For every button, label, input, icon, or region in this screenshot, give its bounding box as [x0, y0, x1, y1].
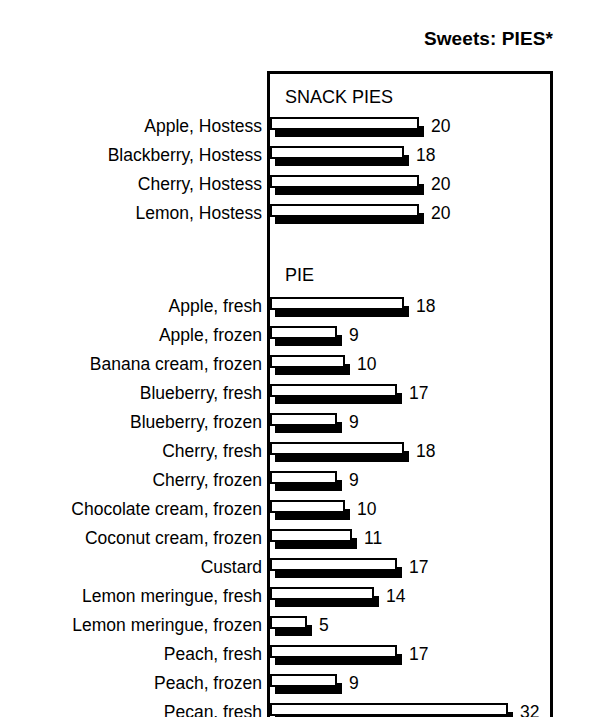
- bar-3d: [270, 587, 379, 600]
- bar-value-label: 5: [319, 615, 329, 635]
- bar-row: Cherry, frozen9: [0, 469, 598, 498]
- bar-3d: [270, 500, 350, 513]
- bar-row-label: Lemon meringue, frozen: [72, 615, 262, 635]
- bar-row-label: Blackberry, Hostess: [108, 145, 262, 165]
- group-header-label: SNACK PIES: [0, 71, 598, 115]
- bar-face: [270, 529, 352, 542]
- bar-face: [270, 413, 337, 426]
- bar-face: [270, 117, 419, 130]
- bar-face: [270, 442, 404, 455]
- bar-value-label: 32: [520, 702, 539, 717]
- bar-face: [270, 471, 337, 484]
- bar-3d: [270, 442, 409, 455]
- bar-value-label: 17: [409, 644, 428, 664]
- bar-row: Peach, fresh17: [0, 643, 598, 672]
- bar-row: Lemon, Hostess20: [0, 202, 598, 231]
- bar-value-label: 9: [349, 673, 359, 693]
- bar-value-label: 11: [364, 528, 382, 548]
- bar-face: [270, 297, 404, 310]
- bar-3d: [270, 204, 424, 217]
- bar-value-label: 10: [357, 354, 376, 374]
- bar-row: Cherry, fresh18: [0, 440, 598, 469]
- bar-3d: [270, 146, 409, 159]
- bar-3d: [270, 297, 409, 310]
- bar-face: [270, 616, 307, 629]
- bar-row-label: Pecan, fresh: [164, 702, 262, 717]
- bar-value-label: 20: [431, 116, 450, 136]
- bar-face: [270, 587, 374, 600]
- bar-row: Blueberry, frozen9: [0, 411, 598, 440]
- bar-row-label: Cherry, fresh: [162, 441, 262, 461]
- bar-value-label: 20: [431, 203, 450, 223]
- bar-face: [270, 384, 397, 397]
- bar-face: [270, 674, 337, 687]
- bar-3d: [270, 384, 402, 397]
- page-title: Sweets: PIES*: [424, 28, 553, 50]
- bar-row: Lemon meringue, fresh14: [0, 585, 598, 614]
- group-separator: [0, 231, 598, 253]
- bar-row-label: Peach, fresh: [164, 644, 262, 664]
- bar-row-label: Lemon meringue, fresh: [82, 586, 262, 606]
- bar-row-label: Cherry, frozen: [152, 470, 262, 490]
- bar-3d: [270, 355, 350, 368]
- bar-face: [270, 703, 508, 716]
- bar-row: Apple, fresh18: [0, 295, 598, 324]
- bar-face: [270, 558, 397, 571]
- bar-value-label: 20: [431, 174, 450, 194]
- bar-row: Lemon meringue, frozen5: [0, 614, 598, 643]
- bar-row-label: Apple, fresh: [169, 296, 262, 316]
- bar-value-label: 10: [357, 499, 376, 519]
- bar-3d: [270, 616, 312, 629]
- bar-3d: [270, 117, 424, 130]
- bar-rows-container: SNACK PIESApple, Hostess20Blackberry, Ho…: [0, 71, 598, 717]
- bar-group-pie: PIEApple, fresh18Apple, frozen9Banana cr…: [0, 253, 598, 717]
- bar-3d: [270, 326, 342, 339]
- bar-row: Blackberry, Hostess18: [0, 144, 598, 173]
- bar-3d: [270, 558, 402, 571]
- bar-value-label: 14: [386, 586, 405, 606]
- bar-row: Pecan, fresh32: [0, 701, 598, 717]
- bar-row-label: Banana cream, frozen: [90, 354, 262, 374]
- bar-row: Blueberry, fresh17: [0, 382, 598, 411]
- bar-3d: [270, 645, 402, 658]
- bar-face: [270, 204, 419, 217]
- bar-row-label: Peach, frozen: [154, 673, 262, 693]
- bar-face: [270, 175, 419, 188]
- bar-row: Banana cream, frozen10: [0, 353, 598, 382]
- bar-row-label: Chocolate cream, frozen: [71, 499, 262, 519]
- bar-face: [270, 645, 397, 658]
- bar-row: Apple, Hostess20: [0, 115, 598, 144]
- bar-row-label: Blueberry, fresh: [140, 383, 262, 403]
- bar-group-snack-pies: SNACK PIESApple, Hostess20Blackberry, Ho…: [0, 71, 598, 231]
- bar-face: [270, 326, 337, 339]
- bar-face: [270, 355, 345, 368]
- bar-value-label: 17: [409, 557, 428, 577]
- bar-row: Apple, frozen9: [0, 324, 598, 353]
- bar-value-label: 17: [409, 383, 428, 403]
- bar-row: Coconut cream, frozen11: [0, 527, 598, 556]
- bar-3d: [270, 471, 342, 484]
- bar-row-label: Cherry, Hostess: [138, 174, 262, 194]
- bar-row-label: Lemon, Hostess: [136, 203, 262, 223]
- bar-3d: [270, 529, 357, 542]
- chart-page: Sweets: PIES* SNACK PIESApple, Hostess20…: [0, 0, 598, 717]
- bar-row: Cherry, Hostess20: [0, 173, 598, 202]
- bar-3d: [270, 413, 342, 426]
- bar-3d: [270, 175, 424, 188]
- bar-face: [270, 500, 345, 513]
- bar-value-label: 18: [416, 296, 435, 316]
- bar-row: Peach, frozen9: [0, 672, 598, 701]
- bar-value-label: 18: [416, 441, 435, 461]
- bar-value-label: 9: [349, 470, 359, 490]
- group-header-label: PIE: [0, 253, 598, 295]
- bar-value-label: 9: [349, 412, 359, 432]
- bar-row: Chocolate cream, frozen10: [0, 498, 598, 527]
- bar-row: Custard17: [0, 556, 598, 585]
- bar-value-label: 9: [349, 325, 359, 345]
- bar-value-label: 18: [416, 145, 435, 165]
- bar-row-label: Coconut cream, frozen: [85, 528, 262, 548]
- bar-row-label: Apple, Hostess: [144, 116, 262, 136]
- bar-3d: [270, 703, 513, 716]
- bar-row-label: Apple, frozen: [159, 325, 262, 345]
- bar-3d: [270, 674, 342, 687]
